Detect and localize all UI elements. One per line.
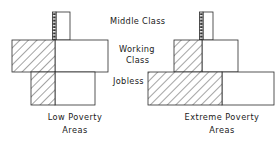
bar-open-segment (56, 12, 70, 40)
bar-open-segment (202, 40, 238, 72)
bar-open-segment (222, 72, 274, 105)
bar-shaded-segment (12, 40, 55, 72)
bar-shaded-segment (174, 40, 202, 72)
group-extreme-poverty: Extreme Poverty Areas (148, 12, 274, 135)
diagram-canvas: Low Poverty Areas Extreme Poverty Areas (0, 0, 279, 141)
group-label-extreme-poverty-line1: Extreme Poverty (185, 112, 260, 122)
bar-open-segment (203, 12, 213, 40)
bar-open-segment (55, 40, 108, 72)
tier-label-middle-class: Middle Class (110, 16, 165, 26)
bar-shaded-segment (31, 72, 55, 105)
tier-label-jobless: Jobless (112, 76, 144, 86)
bar-open-segment (55, 72, 95, 105)
bar-extreme-poverty-jobless[interactable] (148, 72, 274, 105)
bar-low-poverty-working-class[interactable] (12, 40, 108, 72)
tier-label-working-class-line2: Class (126, 55, 149, 65)
group-low-poverty: Low Poverty Areas (12, 12, 108, 135)
bar-extreme-poverty-middle-class[interactable] (200, 12, 214, 40)
group-label-extreme-poverty-line2: Areas (209, 125, 234, 135)
bar-low-poverty-middle-class[interactable] (53, 12, 71, 40)
bar-shaded-segment (53, 12, 57, 40)
tier-label-working-class-line1: Working (119, 44, 155, 54)
bar-shaded-segment (200, 12, 204, 40)
bar-low-poverty-jobless[interactable] (31, 72, 95, 105)
group-label-low-poverty-line2: Areas (62, 125, 87, 135)
class-composition-figure: Low Poverty Areas Extreme Poverty Areas (0, 0, 279, 141)
bar-extreme-poverty-working-class[interactable] (174, 40, 238, 72)
group-label-low-poverty-line1: Low Poverty (48, 112, 103, 122)
bar-shaded-segment (148, 72, 222, 105)
